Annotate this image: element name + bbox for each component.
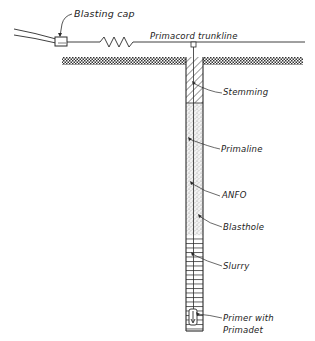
label-primaline: Primaline bbox=[221, 145, 263, 154]
blasting-cap-leader bbox=[60, 14, 72, 36]
anfo-section bbox=[186, 103, 203, 235]
ground-surface bbox=[62, 57, 186, 65]
lead-wires bbox=[14, 29, 56, 43]
blasting-cap-icon bbox=[55, 37, 67, 46]
stemming-section bbox=[186, 57, 203, 103]
label-stemming: Stemming bbox=[223, 88, 268, 97]
label-slurry: Slurry bbox=[223, 262, 249, 271]
label-anfo: ANFO bbox=[222, 191, 247, 200]
label-primer-line1: Primer with bbox=[223, 314, 274, 323]
label-primacord-trunkline: Primacord trunkline bbox=[150, 32, 238, 41]
blasthole-diagram bbox=[0, 0, 315, 341]
trunkline-connector-icon bbox=[191, 42, 196, 47]
label-blasting-cap: Blasting cap bbox=[74, 9, 135, 19]
ground-surface bbox=[203, 57, 303, 65]
label-primer-line2: Primadet bbox=[223, 326, 263, 335]
primer-icon bbox=[189, 309, 197, 325]
label-blasthole: Blasthole bbox=[223, 223, 264, 232]
